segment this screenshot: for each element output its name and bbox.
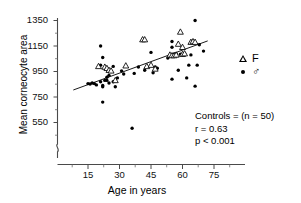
data-point-triangle — [123, 63, 129, 68]
data-point-dot — [185, 76, 188, 79]
data-point-dot — [99, 80, 102, 83]
data-point-dot — [193, 84, 196, 87]
legend: F ♂ — [236, 52, 260, 78]
data-point-triangle — [177, 29, 183, 34]
data-point-dot — [101, 56, 104, 59]
data-point-dot — [112, 65, 115, 68]
x-axis-label: Age in years — [72, 184, 202, 196]
annotation-r-value: r = 0.63 — [195, 123, 274, 136]
x-tick-30: 30 — [108, 170, 132, 180]
data-point-dot — [170, 40, 173, 43]
y-axis-label: Mean corneocyte area — [18, 15, 29, 155]
x-tick-15: 15 — [76, 170, 100, 180]
triangle-marker-icon — [236, 52, 250, 65]
data-point-dot — [107, 81, 110, 84]
legend-label-female: F — [250, 52, 259, 65]
data-point-dot — [114, 85, 117, 88]
legend-label-male: ♂ — [250, 65, 260, 78]
legend-item-male: ♂ — [236, 65, 260, 78]
data-point-dot — [107, 74, 110, 77]
x-tick-75: 75 — [202, 170, 226, 180]
data-point-dot — [170, 77, 173, 80]
data-point-dot — [133, 72, 136, 75]
dot-marker-icon — [236, 65, 250, 78]
data-point-dot — [193, 19, 196, 22]
scatter-plot-figure: 1350 1150 950 750 550 15 30 45 60 75 Mea… — [0, 0, 301, 203]
series-female — [96, 29, 198, 83]
data-point-dot — [187, 63, 190, 66]
data-point-dot — [130, 127, 133, 130]
statistics-annotation: Controls = (n = 50) r = 0.63 p < 0.001 — [195, 110, 274, 148]
x-tick-60: 60 — [171, 170, 195, 180]
annotation-controls-n: Controls = (n = 50) — [195, 110, 274, 123]
data-point-dot — [120, 69, 123, 72]
data-point-dot — [137, 65, 140, 68]
series-male — [86, 19, 205, 130]
annotation-p-value: p < 0.001 — [195, 135, 274, 148]
data-point-dot — [149, 51, 152, 54]
data-point-dot — [101, 85, 104, 88]
data-point-dot — [170, 46, 173, 49]
legend-item-female: F — [236, 52, 260, 65]
data-points — [86, 19, 205, 130]
data-point-triangle — [175, 41, 181, 46]
data-point-dot — [189, 53, 192, 56]
data-point-dot — [99, 44, 102, 47]
data-point-dot — [196, 63, 199, 66]
x-tick-45: 45 — [139, 170, 163, 180]
data-point-dot — [95, 83, 98, 86]
data-point-dot — [122, 72, 125, 75]
data-point-dot — [101, 100, 104, 103]
data-point-dot — [202, 49, 205, 52]
data-point-dot — [177, 69, 180, 72]
